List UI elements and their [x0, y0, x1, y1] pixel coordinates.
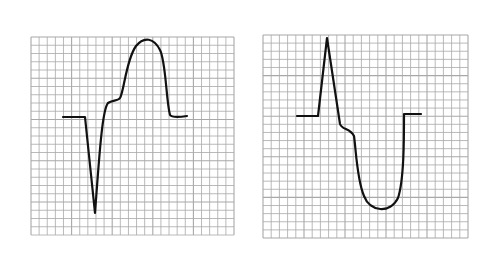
- ecg-diagram-canvas: [0, 0, 496, 261]
- left-grid: [31, 37, 234, 235]
- right-grid: [263, 35, 468, 238]
- left-ecg-panel: [31, 37, 234, 235]
- left-waveform-trace: [63, 40, 187, 213]
- right-ecg-panel: [263, 35, 468, 238]
- ecg-figure: [0, 0, 496, 261]
